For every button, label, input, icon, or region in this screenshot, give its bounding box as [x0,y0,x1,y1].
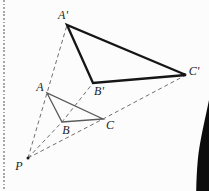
vertex-label-C: C [106,119,114,131]
vertex-label-B: B [62,124,69,136]
vertex-label-P: P [15,160,22,172]
vertex-label-B2: B' [94,85,104,97]
vertex-label-C2: C' [189,65,200,77]
vertex-label-A: A [36,81,43,93]
vertex-labels: PABCA'B'C' [0,0,209,191]
dilation-figure: PABCA'B'C' [0,0,209,191]
vertex-label-A2: A' [58,9,68,21]
